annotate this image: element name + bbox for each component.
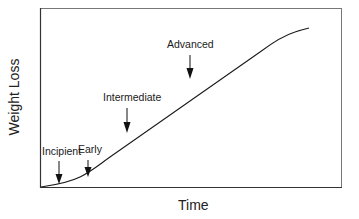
y-axis-title: Weight Loss <box>6 57 22 137</box>
chart-canvas <box>0 0 359 219</box>
advanced-arrow-icon <box>187 55 194 79</box>
early-label: Early <box>78 143 102 155</box>
incipient-arrow-icon <box>56 161 63 184</box>
advanced-label: Advanced <box>167 38 214 50</box>
intermediate-label: Intermediate <box>103 91 161 103</box>
x-axis-title: Time <box>178 197 209 213</box>
intermediate-arrow-icon <box>124 108 131 133</box>
weight-loss-curve <box>41 28 309 187</box>
plot-frame <box>41 9 342 188</box>
incipient-label: Incipient <box>42 145 81 157</box>
